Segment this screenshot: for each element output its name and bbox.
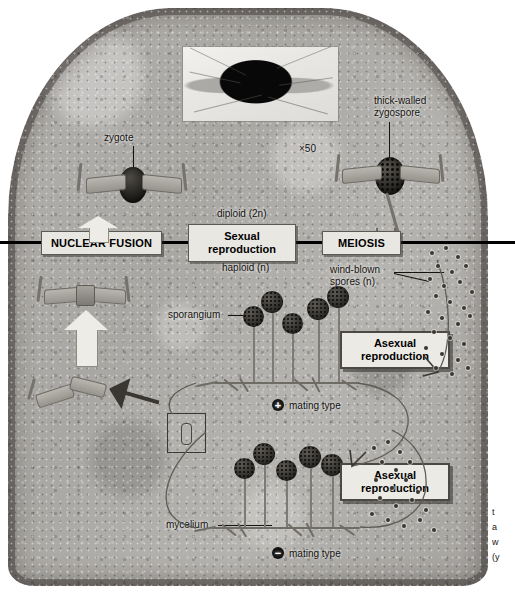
side-caption-line-3: w <box>492 535 514 550</box>
magnification-label: ×50 <box>299 143 316 154</box>
zygospore-micrograph-inset <box>183 47 338 121</box>
minus-symbol-icon: − <box>272 547 284 559</box>
zygote-label: zygote <box>104 132 133 144</box>
dark-arrow-to-gametangia <box>105 373 164 418</box>
mating-type-plus: + mating type <box>272 399 341 411</box>
diploid-label: diploid (2n) <box>217 208 266 220</box>
side-caption-line-2: a <box>492 520 514 535</box>
hyphae-contact-detail-box <box>167 413 206 453</box>
figure-canvas: ×50 zygote thick-walled zygospore diploi… <box>0 0 515 594</box>
phase-meiosis[interactable]: MEIOSIS <box>322 231 401 255</box>
phase-sexual-reproduction[interactable]: Sexual reproduction <box>188 224 296 262</box>
asexual-reproduction-box-top[interactable]: Asexual reproduction <box>340 331 450 369</box>
spores-leader-line-2 <box>394 273 429 282</box>
wind-blown-spores-label: wind-blown spores (n) <box>330 264 380 288</box>
spores-leader-line-1 <box>394 272 444 273</box>
diagram-layer: ×50 zygote thick-walled zygospore diploi… <box>0 0 515 594</box>
mating-type-minus: − mating type <box>272 547 341 559</box>
side-caption-line-1: t <box>492 505 514 520</box>
white-arrow-up-nuclear-fusion <box>78 216 118 240</box>
plus-symbol-icon: + <box>272 399 284 411</box>
thick-walled-zygospore-label: thick-walled zygospore <box>374 95 426 119</box>
side-caption-line-4: (y <box>492 550 514 565</box>
mating-type-plus-label: mating type <box>289 400 341 411</box>
sporangium-label: sporangium <box>168 309 220 321</box>
side-caption-cropped: t a w (y <box>492 505 514 565</box>
haploid-label: haploid (n) <box>222 262 269 274</box>
white-arrow-up-fusion <box>64 310 108 366</box>
zygospore-leader-line <box>389 122 390 158</box>
mating-type-minus-label: mating type <box>289 548 341 559</box>
